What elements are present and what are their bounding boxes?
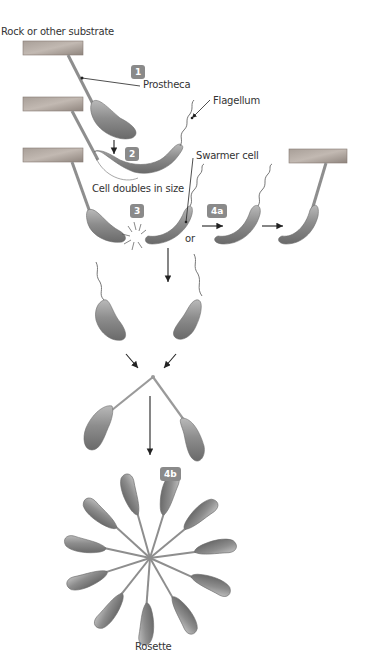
stage-3 <box>23 148 204 250</box>
rosette <box>64 472 238 646</box>
step-badge-2: 2 <box>125 147 139 161</box>
step-badge-4a: 4a <box>207 204 227 218</box>
stage-1 <box>23 41 140 139</box>
label-prostheca: Prostheca <box>143 79 190 90</box>
diagram: Rock or other substrate Prostheca Flagel… <box>0 0 367 667</box>
diagram-canvas <box>0 0 367 667</box>
substrate-rock-4a <box>289 149 347 163</box>
stage-4b <box>84 248 204 461</box>
label-or: or <box>185 233 195 244</box>
substrate-rock-3 <box>23 148 83 162</box>
stage-2 <box>23 97 210 180</box>
step-badge-4b: 4b <box>160 467 181 481</box>
stage-4a <box>202 149 347 244</box>
step-badge-3: 3 <box>130 204 144 218</box>
label-flagellum: Flagellum <box>213 95 260 106</box>
label-substrate: Rock or other substrate <box>1 26 114 37</box>
label-rosette: Rosette <box>135 641 172 652</box>
substrate-rock-2 <box>23 97 83 111</box>
label-cell-doubles: Cell doubles in size <box>92 183 184 194</box>
step-badge-1: 1 <box>131 65 145 79</box>
substrate-rock-1 <box>23 41 83 55</box>
label-swarmer-cell: Swarmer cell <box>196 150 259 161</box>
